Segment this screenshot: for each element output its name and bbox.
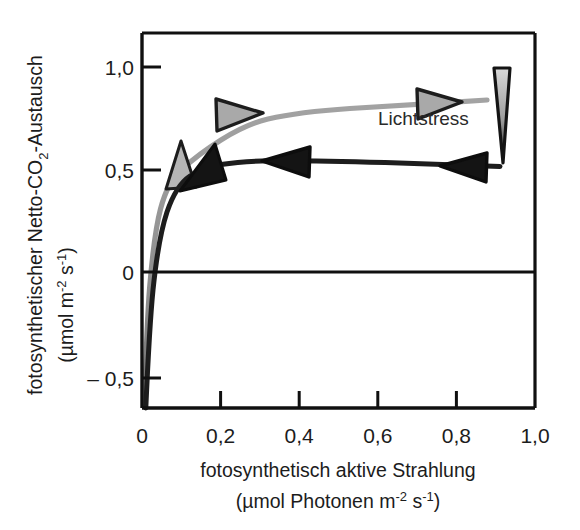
photosynthesis-light-response-chart: Lichtstress 1,0 0,5 0 – 0,5 — [0, 0, 580, 530]
chart-figure: Lichtstress 1,0 0,5 0 – 0,5 — [0, 0, 580, 530]
x-tick-label-0.6: 0,6 — [363, 424, 392, 447]
x-axis-title-line-2: (µmol Photonen m-2 s-1) — [236, 489, 441, 512]
y-axis-title-line-2-mid: s — [55, 265, 77, 280]
y-axis-title-line-2-post: ) — [55, 247, 77, 254]
x-axis-title-line-2-pre: (µmol Photonen m — [236, 490, 396, 512]
x-tick-label-0.8: 0,8 — [442, 424, 471, 447]
x-axis-tick-labels: 0 0,2 0,4 0,6 0,8 1,0 — [136, 424, 549, 447]
y-axis-title-line-1: fotosynthetischer Netto-CO2-Austausch — [24, 55, 51, 395]
x-tick-label-1.0: 1,0 — [520, 424, 549, 447]
x-axis-title-line-1: fotosynthetisch aktive Strahlung — [200, 459, 475, 481]
y-tick-label-1.0: 1,0 — [105, 56, 134, 79]
x-axis-title-line-2-mid: s — [407, 490, 422, 512]
y-axis-title-line-2-pre: (µmol m — [55, 292, 77, 363]
y-axis-title-line-2: (µmol m-2 s-1) — [54, 247, 77, 363]
y-axis-tick-labels: 1,0 0,5 0 – 0,5 — [87, 56, 134, 390]
x-axis-title: fotosynthetisch aktive Strahlung (µmol P… — [200, 459, 475, 512]
y-axis-title: fotosynthetischer Netto-CO2-Austausch (µ… — [24, 55, 77, 395]
y-tick-label-0: 0 — [122, 261, 134, 284]
x-axis-title-line-2-post: ) — [434, 490, 441, 512]
x-tick-label-0: 0 — [136, 424, 148, 447]
light-stress-label: Lichtstress — [378, 108, 469, 129]
y-axis-title-line-1-pre: fotosynthetischer Netto-CO — [24, 160, 46, 395]
y-tick-label--0.5: – 0,5 — [87, 367, 134, 390]
x-tick-label-0.2: 0,2 — [206, 424, 235, 447]
y-axis-title-line-1-sub: 2 — [36, 153, 51, 160]
y-axis-title-line-2-sup1: -2 — [54, 280, 69, 292]
x-axis-title-line-2-sup2: -1 — [422, 489, 434, 504]
y-axis-title-line-1-post: -Austausch — [24, 55, 46, 153]
y-axis-title-line-2-sup2: -1 — [54, 254, 69, 266]
plot-background — [142, 33, 535, 408]
x-axis-title-line-2-sup1: -2 — [395, 489, 407, 504]
x-tick-label-0.4: 0,4 — [285, 424, 315, 447]
y-tick-label-0.5: 0,5 — [105, 159, 134, 182]
